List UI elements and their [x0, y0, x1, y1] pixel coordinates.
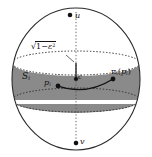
- point-v: [74, 141, 79, 146]
- point-projection: [111, 77, 116, 82]
- label-band-height: √1−ε2: [31, 43, 56, 51]
- label-projected-point: πi(pi): [111, 68, 131, 76]
- label-v: v: [80, 138, 85, 146]
- label-u: u: [75, 12, 80, 20]
- label-source-point: pi: [44, 79, 51, 87]
- label-slab: Si: [22, 72, 30, 82]
- point-u: [68, 13, 73, 18]
- point-pi: [56, 84, 61, 89]
- label-c: c: [78, 74, 82, 81]
- axis-notch: [60, 63, 82, 70]
